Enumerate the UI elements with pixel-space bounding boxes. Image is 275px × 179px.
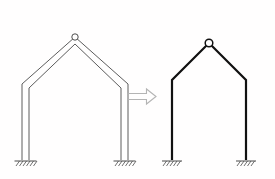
right-support-fixed	[236, 161, 256, 166]
left-gable-frame	[15, 34, 137, 166]
frame-inner-profile	[29, 44, 121, 160]
support-hatching-icon	[237, 161, 255, 166]
right-idealized-frame	[162, 39, 256, 166]
diagram-canvas	[0, 0, 275, 179]
right-support-fixed	[114, 161, 137, 166]
support-hatching-icon	[115, 161, 136, 166]
figure-svg	[0, 0, 275, 179]
left-support-fixed	[15, 161, 38, 166]
frame-centerline	[172, 43, 246, 160]
apex-hinge-icon	[205, 39, 213, 47]
support-hatching-icon	[16, 161, 37, 166]
frame-outer-profile	[22, 37, 128, 160]
apex-hinge-icon	[72, 34, 78, 40]
arrow-right-icon	[128, 89, 156, 104]
transform-arrow	[128, 89, 156, 104]
support-hatching-icon	[163, 161, 181, 166]
left-support-fixed	[162, 161, 182, 166]
